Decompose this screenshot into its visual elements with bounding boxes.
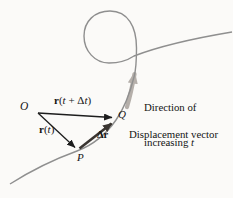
space-curve [10, 11, 232, 184]
vector-rtdt-plus: + [66, 94, 78, 106]
displacement-note: Displacement vector [129, 129, 218, 140]
direction-note-line1: Direction of [144, 102, 196, 114]
vector-rtdt-label: r(t + Δt) [54, 95, 91, 106]
vector-curve-figure: O r(t + Δt) Q r(t) P Δr Direction of inc… [0, 0, 233, 198]
vector-rtdt-close: ) [87, 94, 91, 106]
vector-rt-label: r(t) [39, 124, 54, 135]
vector-rt-close: ) [51, 123, 55, 135]
direction-note: Direction of increasing t [144, 79, 196, 172]
point-q-label: Q [118, 109, 126, 120]
origin-label: O [20, 101, 28, 113]
point-p-label: P [77, 152, 84, 163]
delta-r-label: Δr [97, 130, 108, 141]
position-vector-rtdt-arrow [38, 113, 112, 118]
figure-canvas [0, 0, 233, 198]
